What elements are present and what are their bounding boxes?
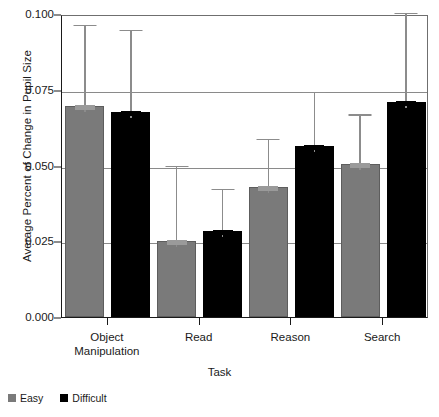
y-axis-tick-mark [54, 90, 61, 91]
bar-difficult [111, 112, 150, 317]
bar-easy [341, 164, 380, 317]
y-axis-tick-label: 0.100 [8, 9, 54, 21]
bar-easy [65, 106, 104, 317]
error-bar-line [130, 30, 131, 119]
x-axis-tick-mark [382, 318, 383, 325]
error-bar-line [405, 13, 406, 108]
x-axis-tick-mark [107, 318, 108, 325]
bar-difficult [387, 102, 426, 317]
error-bar-base [167, 240, 187, 245]
error-bar-line [314, 92, 315, 152]
y-axis-tick-mark [54, 242, 61, 243]
error-bar-base [75, 105, 95, 110]
y-axis-tick-label: 0.050 [8, 161, 54, 173]
error-bar-base [304, 145, 324, 150]
legend-label: Difficult [72, 392, 106, 404]
legend-swatch-difficult [60, 394, 68, 402]
x-axis-tick-mark [290, 318, 291, 325]
error-bar-base [121, 111, 141, 116]
legend-swatch-easy [8, 394, 16, 402]
legend-item-difficult: Difficult [60, 392, 106, 404]
error-bar-cap [349, 114, 372, 115]
x-axis-tick-label: Search [322, 331, 439, 345]
y-axis-tick-mark [54, 166, 61, 167]
y-axis-tick-mark [54, 15, 61, 16]
error-bar-cap [303, 92, 326, 93]
y-axis-tick-label: 0.000 [8, 312, 54, 324]
error-bar-base [258, 186, 278, 191]
legend-label: Easy [20, 392, 43, 404]
gridline [62, 92, 427, 93]
error-bar-cap [73, 25, 96, 26]
error-bar-cap [165, 166, 188, 167]
legend: EasyDifficult [8, 392, 107, 404]
y-axis-tick-label: 0.075 [8, 85, 54, 97]
bar-easy [249, 187, 288, 317]
error-bar-line [359, 114, 360, 170]
error-bar-cap [395, 13, 418, 14]
error-bar-base [350, 163, 370, 168]
x-axis-title: Task [0, 366, 439, 378]
y-axis-tick-mark [54, 318, 61, 319]
y-axis-tick-label: 0.025 [8, 237, 54, 249]
error-bar-cap [257, 139, 280, 140]
plot-area [61, 15, 428, 318]
x-axis-tick-mark [199, 318, 200, 325]
error-bar-line [84, 25, 85, 112]
error-bar-base [213, 230, 233, 235]
error-bar-line [176, 166, 177, 247]
error-bar-base [396, 101, 416, 106]
error-bar-cap [119, 30, 142, 31]
error-bar-line [268, 139, 269, 193]
bar-chart-figure: Average Percent of Change in Pupil Size … [0, 0, 439, 417]
bar-difficult [295, 146, 334, 317]
bar-difficult [203, 231, 242, 317]
error-bar-cap [211, 189, 234, 190]
bar-easy [157, 241, 196, 317]
legend-item-easy: Easy [8, 392, 43, 404]
